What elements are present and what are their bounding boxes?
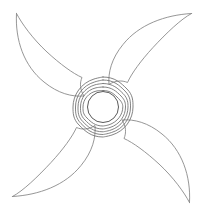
hub-bore <box>88 92 119 123</box>
propeller-drawing <box>0 0 204 216</box>
propeller-figure <box>0 0 204 216</box>
